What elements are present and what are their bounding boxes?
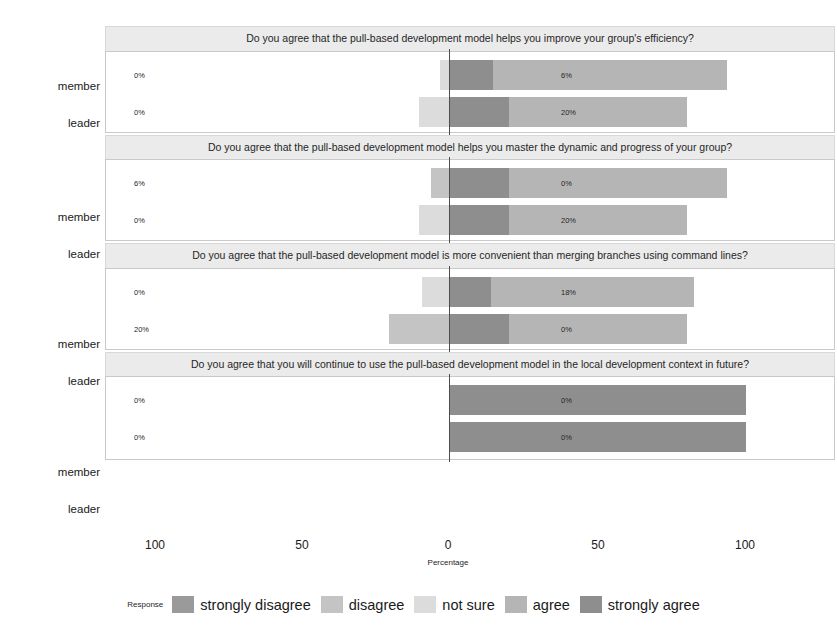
legend-label-disagree: disagree [349, 597, 405, 613]
segment-not-sure [419, 97, 449, 127]
y-label-member-panel-1: member [0, 80, 100, 92]
stacked-bar-leader-4[interactable] [449, 422, 746, 452]
panel-strip-title-4: Do you agree that you will continue to u… [105, 352, 835, 377]
segment-strongly-agree [449, 97, 509, 127]
panel-convenience: Do you agree that the pull-based develop… [105, 243, 835, 350]
legend-label-strongly-agree: strongly agree [608, 597, 700, 613]
panel-efficiency: Do you agree that the pull-based develop… [105, 26, 835, 133]
zero-reference-line [449, 374, 450, 462]
y-label-member-panel-3: member [0, 338, 100, 350]
bar-label-left-member-3: 0% [134, 288, 145, 297]
panel-dynamic-progress: Do you agree that the pull-based develop… [105, 135, 835, 242]
segment-strongly-agree [449, 205, 509, 235]
segment-strongly-agree [449, 60, 493, 90]
x-axis: 100 50 0 50 100 Percentage [105, 538, 835, 578]
bar-label-center-leader-2: 20% [561, 216, 576, 225]
segment-agree [509, 314, 687, 344]
x-tick-0: 100 [145, 538, 165, 552]
panel-strip-title-2: Do you agree that the pull-based develop… [105, 135, 835, 160]
bar-label-center-member-1: 6% [561, 71, 572, 80]
legend-item-not-sure[interactable]: not sure [414, 596, 494, 613]
bar-label-left-leader-3: 20% [134, 325, 149, 334]
panel-strip-title-3: Do you agree that the pull-based develop… [105, 243, 835, 268]
segment-not-sure [422, 277, 449, 307]
legend-item-strongly-disagree[interactable]: strongly disagree [172, 596, 310, 613]
legend-swatch-disagree [321, 596, 343, 613]
segment-agree [509, 205, 687, 235]
segment-agree [509, 97, 687, 127]
bar-label-center-member-2: 0% [561, 179, 572, 188]
segment-strongly-agree [449, 385, 746, 415]
panel-continue-use: Do you agree that you will continue to u… [105, 352, 835, 461]
bar-row-leader-2: 0% 20% 80% [106, 205, 834, 235]
bar-row-leader-4: 0% 0% 100% [106, 422, 834, 452]
panel-strip-title-1: Do you agree that the pull-based develop… [105, 26, 835, 51]
x-axis-title: Percentage [428, 558, 469, 567]
panel-plot-2: 6% 0% 94% 0% 20% 80% [105, 159, 835, 241]
zero-reference-line [449, 157, 450, 243]
panel-stack: Do you agree that the pull-based develop… [105, 26, 835, 462]
segment-strongly-agree [449, 422, 746, 452]
segment-agree [509, 168, 727, 198]
bar-row-leader-1: 0% 20% 80% [106, 97, 834, 127]
segment-disagree [389, 314, 449, 344]
y-label-leader-panel-4: leader [0, 503, 100, 515]
stacked-bar-member-2[interactable] [431, 168, 727, 198]
legend-label-agree: agree [533, 597, 570, 613]
legend-swatch-strongly-agree [580, 596, 602, 613]
segment-not-sure [440, 60, 449, 90]
bar-label-left-leader-4: 0% [134, 433, 145, 442]
panel-plot-3: 0% 18% 82% 20% 0% 80% [105, 268, 835, 350]
zero-reference-line [449, 49, 450, 135]
stacked-bar-leader-3[interactable] [389, 314, 687, 344]
stacked-bar-member-3[interactable] [422, 277, 694, 307]
zero-reference-line [449, 266, 450, 352]
segment-strongly-agree [449, 314, 509, 344]
x-tick-1: 50 [295, 538, 308, 552]
legend-title: Response [127, 600, 163, 609]
legend-item-strongly-agree[interactable]: strongly agree [580, 596, 700, 613]
bar-label-left-member-1: 0% [134, 71, 145, 80]
legend-swatch-strongly-disagree [172, 596, 194, 613]
y-label-leader-panel-2: leader [0, 248, 100, 260]
x-tick-3: 50 [591, 538, 604, 552]
bar-label-center-member-3: 18% [561, 288, 576, 297]
bar-row-member-3: 0% 18% 82% [106, 277, 834, 307]
segment-strongly-agree [449, 168, 509, 198]
x-tick-4: 100 [735, 538, 755, 552]
bar-row-leader-3: 20% 0% 80% [106, 314, 834, 344]
segment-not-sure [419, 205, 449, 235]
segment-agree [493, 60, 727, 90]
legend-label-not-sure: not sure [442, 597, 494, 613]
bar-row-member-1: 0% 6% 94% [106, 60, 834, 90]
stacked-bar-leader-1[interactable] [419, 97, 687, 127]
stacked-bar-leader-2[interactable] [419, 205, 687, 235]
legend-item-disagree[interactable]: disagree [321, 596, 405, 613]
y-label-leader-panel-3: leader [0, 375, 100, 387]
panel-plot-1: 0% 6% 94% 0% 20% 80% [105, 51, 835, 133]
bar-label-left-leader-2: 0% [134, 216, 145, 225]
bar-label-center-leader-4: 0% [561, 433, 572, 442]
bar-label-left-leader-1: 0% [134, 108, 145, 117]
bar-row-member-4: 0% 0% 100% [106, 385, 834, 415]
bar-label-center-leader-1: 20% [561, 108, 576, 117]
y-label-leader-panel-1: leader [0, 117, 100, 129]
bar-label-center-member-4: 0% [561, 396, 572, 405]
bar-label-left-member-4: 0% [134, 396, 145, 405]
segment-disagree [431, 168, 449, 198]
y-label-member-panel-2: member [0, 211, 100, 223]
legend-swatch-not-sure [414, 596, 436, 613]
bar-label-center-leader-3: 0% [561, 325, 572, 334]
stacked-bar-member-1[interactable] [440, 60, 727, 90]
likert-chart: member leader member leader member leade… [0, 0, 837, 644]
legend-swatch-agree [505, 596, 527, 613]
bar-row-member-2: 6% 0% 94% [106, 168, 834, 198]
legend: Response strongly disagree disagree not … [0, 596, 837, 613]
segment-agree [491, 277, 694, 307]
bar-label-left-member-2: 6% [134, 179, 145, 188]
legend-item-agree[interactable]: agree [505, 596, 570, 613]
y-label-member-panel-4: member [0, 466, 100, 478]
segment-strongly-agree [449, 277, 491, 307]
panel-plot-4: 0% 0% 100% 0% 0% 100% [105, 376, 835, 460]
stacked-bar-member-4[interactable] [449, 385, 746, 415]
